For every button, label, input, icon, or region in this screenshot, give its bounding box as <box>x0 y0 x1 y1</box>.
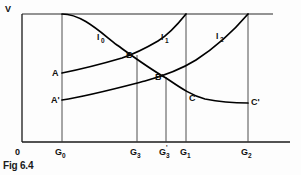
x-tick-G3-letter: G <box>130 147 137 157</box>
x-tick-G1-letter: G <box>180 147 187 157</box>
point-label-A-prime: A' <box>51 95 60 105</box>
x-tick-G3-prime-letter: G <box>159 147 166 157</box>
curve-label-I2-subscript: 2 <box>220 36 224 43</box>
x-tick-G3-prime: G 3 ' <box>159 144 170 159</box>
curve-label-I2: I 2 <box>216 31 224 43</box>
curve-label-I0-letter: I <box>97 32 99 42</box>
x-tick-G3-prime-mark: ' <box>166 144 168 151</box>
x-tick-G3: G 3 <box>130 147 141 159</box>
point-label-B-prime: B' <box>155 72 164 82</box>
curve-I0 <box>62 14 248 103</box>
figure-page: V 0 G 0 G 3 G 3 ' G 1 G 2 I 0 I <box>0 0 301 175</box>
x-tick-G2-letter: G <box>241 147 248 157</box>
curve-label-I1-subscript: 1 <box>165 37 169 44</box>
curve-label-I0-subscript: 0 <box>101 37 105 44</box>
x-tick-G0-letter: G <box>55 147 62 157</box>
x-tick-G0-subscript: 0 <box>62 152 66 159</box>
curve-label-I1-letter: I <box>161 32 163 42</box>
curve-label-I2-letter: I <box>216 31 218 41</box>
point-label-B: B <box>126 50 133 60</box>
point-label-A: A <box>52 68 59 78</box>
origin-label: 0 <box>15 147 20 157</box>
figure-caption: Fig 6.4 <box>3 160 33 171</box>
x-tick-G2: G 2 <box>241 147 252 159</box>
x-tick-G3-prime-subscript: 3 <box>166 152 170 159</box>
x-tick-G1: G 1 <box>180 147 191 159</box>
x-tick-G2-subscript: 2 <box>248 152 252 159</box>
x-tick-G0: G 0 <box>55 147 66 159</box>
point-label-C: C <box>189 93 196 103</box>
x-tick-G3-subscript: 3 <box>137 152 141 159</box>
curve-I2 <box>62 14 248 100</box>
figure-canvas: V 0 G 0 G 3 G 3 ' G 1 G 2 I 0 I <box>0 0 301 175</box>
point-label-C-prime: C' <box>251 97 260 107</box>
x-tick-G1-subscript: 1 <box>187 152 191 159</box>
y-axis-label: V <box>5 4 11 14</box>
